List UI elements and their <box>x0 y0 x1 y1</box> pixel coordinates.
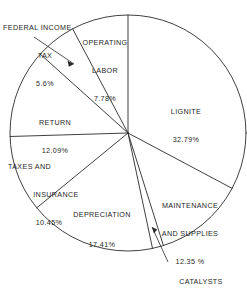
slice-name-maintenance-line2: AND SUPPLIES <box>144 229 236 238</box>
slice-name-return: RETURN <box>20 118 90 127</box>
slice-name-operating-labor-line2: LABOR <box>74 66 136 75</box>
slice-percent-return: 12.09% <box>20 146 90 155</box>
slice-name-taxes-line2: INSURANCE <box>19 190 93 199</box>
slice-name-lignite: LIGNITE <box>150 107 222 116</box>
pie-chart: FEDERAL INCOME TAX 5.6% OPERATING LABOR … <box>0 0 247 300</box>
slice-name-operating-labor-line1: OPERATING <box>74 38 136 47</box>
slice-label-lignite: LIGNITE 32.79% <box>150 88 222 163</box>
slice-name-maintenance-line1: MAINTENANCE <box>144 201 236 210</box>
slice-percent-taxes-and-insurance: 10.45% <box>5 218 93 227</box>
slice-name-catalysts-line1: CATALYSTS <box>161 277 241 286</box>
slice-percent-lignite: 32.79% <box>150 135 222 144</box>
slice-label-catalysts-and-chemicals: CATALYSTS AND CHEMICALS 1.54% <box>161 258 241 300</box>
slice-label-return: RETURN 12.09% <box>20 99 90 174</box>
